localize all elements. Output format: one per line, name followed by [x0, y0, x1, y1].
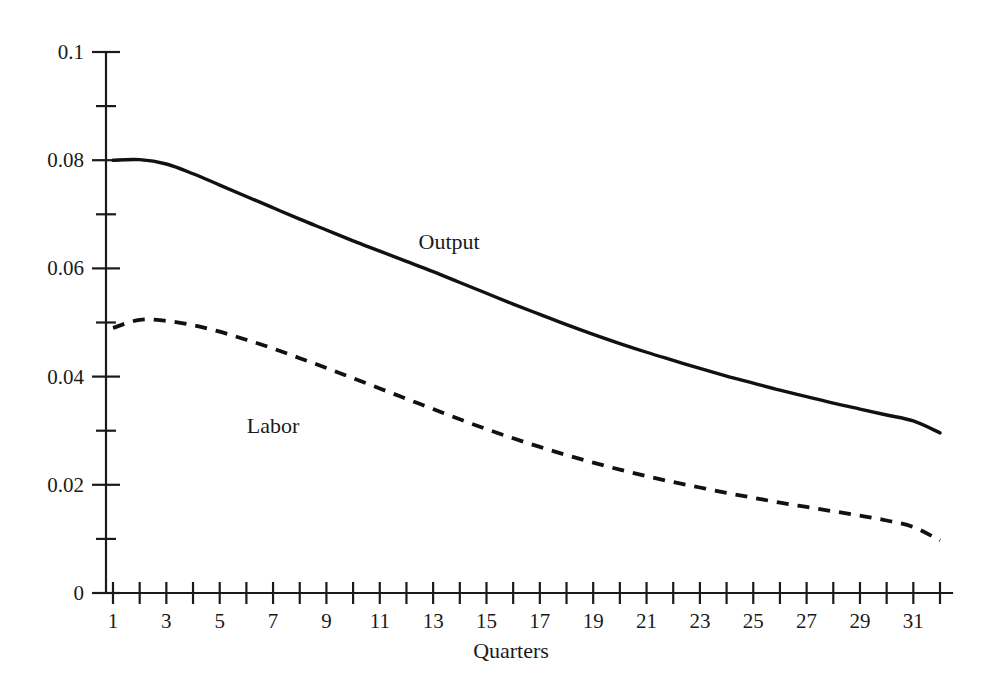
- y-tick-label: 0.08: [47, 148, 84, 172]
- x-tick-label: 3: [161, 609, 172, 633]
- x-tick-label: 9: [321, 609, 332, 633]
- x-tick-label: 29: [849, 609, 870, 633]
- series-label-output: Output: [419, 229, 480, 254]
- x-tick-label: 23: [689, 609, 710, 633]
- x-tick-label: 31: [903, 609, 924, 633]
- x-tick-label: 25: [743, 609, 764, 633]
- line-chart: 00.020.040.060.080.1 1357911131517192123…: [0, 0, 987, 695]
- y-tick-label: 0.04: [47, 365, 84, 389]
- y-tick-label: 0.06: [47, 256, 84, 280]
- chart-background: [0, 0, 987, 695]
- x-tick-label: 1: [108, 609, 119, 633]
- x-tick-label: 21: [636, 609, 657, 633]
- y-tick-label: 0.02: [47, 473, 84, 497]
- x-tick-label: 11: [370, 609, 390, 633]
- x-tick-label: 15: [476, 609, 497, 633]
- x-tick-label: 7: [268, 609, 279, 633]
- x-tick-label: 5: [214, 609, 225, 633]
- x-axis-title: Quarters: [473, 638, 549, 663]
- y-tick-label: 0.1: [58, 40, 84, 64]
- y-tick-label: 0: [74, 581, 85, 605]
- x-tick-label: 13: [423, 609, 444, 633]
- x-tick-label: 19: [583, 609, 604, 633]
- x-tick-label: 17: [529, 609, 550, 633]
- x-tick-label: 27: [796, 609, 817, 633]
- series-label-labor: Labor: [247, 413, 300, 438]
- figure-container: 00.020.040.060.080.1 1357911131517192123…: [0, 0, 987, 695]
